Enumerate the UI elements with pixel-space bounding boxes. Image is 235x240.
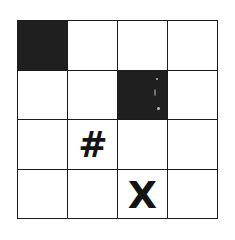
cell-glyph-x: X	[118, 176, 167, 214]
grid-canvas: # X	[17, 20, 218, 219]
grid-cell-r3c1[interactable]	[18, 120, 68, 170]
grid-cell-r1c1[interactable]	[18, 21, 68, 71]
grid-cell-r4c2[interactable]	[68, 169, 118, 219]
grid-row	[18, 21, 218, 71]
grid-cell-r2c2[interactable]	[68, 70, 118, 120]
grid-cell-r4c4[interactable]	[168, 169, 218, 219]
scan-speckle-icon	[154, 89, 156, 96]
grid-cell-r2c4[interactable]	[168, 70, 218, 120]
grid-cell-r3c3[interactable]	[118, 120, 168, 170]
grid-cell-r2c3[interactable]	[118, 70, 168, 120]
grid-cell-r4c3[interactable]: X	[118, 169, 168, 219]
grid-cell-r1c2[interactable]	[68, 21, 118, 71]
grid-cell-r2c1[interactable]	[18, 70, 68, 120]
cell-glyph-hash: #	[68, 128, 117, 163]
grid-cell-r1c3[interactable]	[118, 21, 168, 71]
grid-cell-r3c2[interactable]: #	[68, 120, 118, 170]
puzzle-grid: # X	[17, 20, 218, 219]
grid-cell-r3c4[interactable]	[168, 120, 218, 170]
grid-row	[18, 70, 218, 120]
grid-cell-r1c4[interactable]	[168, 21, 218, 71]
grid-row: #	[18, 120, 218, 170]
scan-speckle-icon	[157, 107, 160, 110]
grid-row: X	[18, 169, 218, 219]
scan-speckle-icon	[156, 78, 158, 80]
grid-cell-r4c1[interactable]	[18, 169, 68, 219]
